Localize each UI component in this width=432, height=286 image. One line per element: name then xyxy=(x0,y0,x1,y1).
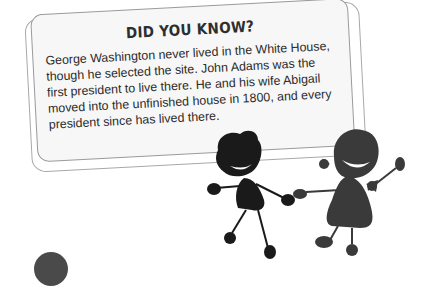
boy-figure-icon xyxy=(207,131,295,259)
card-body-text: George Washington never lived in the Whi… xyxy=(45,38,341,133)
girl-figure-icon xyxy=(293,129,405,256)
kids-holding-hands-illustration xyxy=(200,128,432,269)
page-corner-decoration-icon xyxy=(34,252,68,286)
